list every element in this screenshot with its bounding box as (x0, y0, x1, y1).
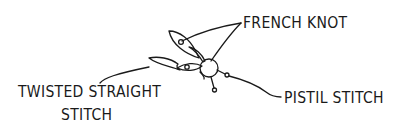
pistil-down (211, 77, 217, 92)
leader-twisted-straight (100, 67, 149, 83)
label-twisted-straight-line2: STITCH (61, 107, 112, 122)
label-french-knot: FRENCH KNOT (243, 15, 347, 30)
petal-lower (177, 64, 202, 71)
pistil-knot-down (213, 88, 217, 92)
french-knot-dot-lower (185, 65, 189, 69)
petal-left (149, 57, 180, 70)
flower-center-circle (200, 59, 218, 77)
label-pistil-stitch: PISTIL STITCH (284, 90, 384, 105)
label-twisted-straight-line1: TWISTED STRAIGHT (18, 84, 161, 99)
leader-pistil-stitch (229, 76, 281, 97)
stitch-diagram: FRENCH KNOT PISTIL STITCH TWISTED STRAIG… (0, 0, 412, 131)
pistil-knot-right (225, 73, 229, 77)
pistil-right (217, 70, 229, 77)
